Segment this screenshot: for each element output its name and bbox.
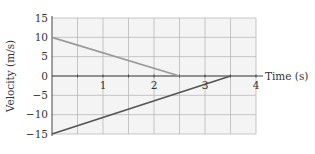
x-tick-label: 2: [151, 79, 158, 91]
y-tick-label: −15: [26, 128, 48, 140]
y-tick-label: 15: [35, 12, 48, 24]
x-tick-label: 3: [202, 79, 209, 91]
x-tick-label: 4: [253, 79, 260, 91]
velocity-time-chart: 1234151050−5−10−15 Time (s) Velocity (m/…: [0, 0, 315, 154]
x-tick-label: 1: [100, 79, 107, 91]
y-axis-label: Velocity (m/s): [4, 40, 16, 113]
x-axis-label: Time (s): [265, 70, 308, 82]
y-tick-label: 10: [35, 31, 48, 43]
y-tick-label: −10: [26, 108, 48, 120]
y-tick-label: 5: [41, 50, 48, 62]
y-tick-label: −5: [33, 89, 48, 101]
y-tick-label: 0: [41, 70, 48, 82]
